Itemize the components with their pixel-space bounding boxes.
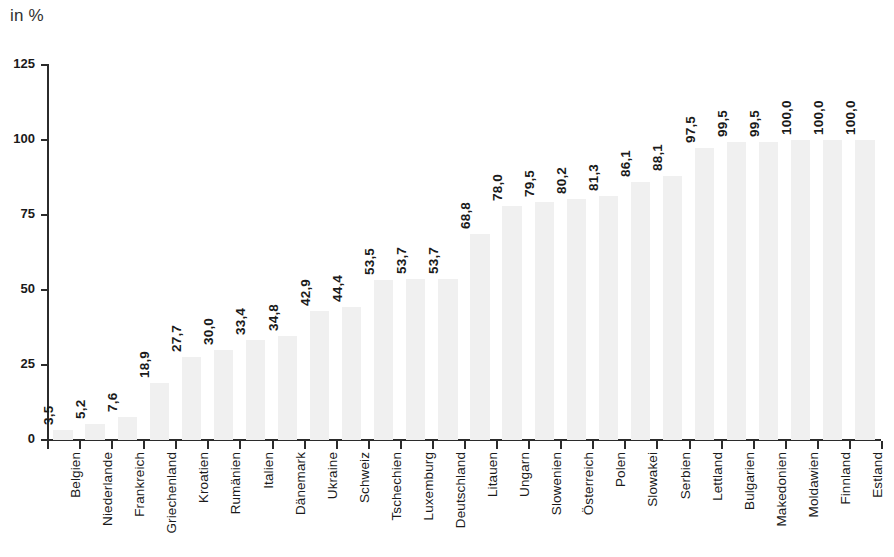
x-tick <box>79 441 81 449</box>
bar[interactable] <box>663 176 682 440</box>
bar[interactable] <box>246 340 265 440</box>
bar-value-label: 88,1 <box>650 144 665 171</box>
bar-value-label: 53,7 <box>394 247 409 274</box>
category-label-text: Serbien <box>678 452 693 499</box>
bar[interactable] <box>150 383 169 440</box>
bar[interactable] <box>823 140 842 440</box>
bar[interactable] <box>695 148 714 441</box>
category-label: Belgien <box>68 452 83 498</box>
category-label-text: Ukraine <box>325 452 340 499</box>
bar[interactable] <box>406 279 425 440</box>
x-tick <box>400 441 402 449</box>
bar[interactable] <box>631 182 650 440</box>
category-label: Slowenien <box>549 452 564 515</box>
bar[interactable] <box>470 234 489 440</box>
bar-value-label: 100,0 <box>779 100 794 135</box>
category-label: Niederlande <box>100 452 115 526</box>
bar-slot: 33,4 <box>246 65 265 440</box>
y-tick-label: 0 <box>28 431 35 446</box>
x-tick <box>560 441 562 449</box>
category-label: Litauen <box>485 452 500 497</box>
x-tick <box>175 441 177 449</box>
category-label-text: Makedonien <box>774 452 789 527</box>
category-label-text: Estland <box>870 452 885 498</box>
category-label-text: Kroatien <box>196 452 211 503</box>
category-label: Italien <box>261 452 276 489</box>
bar-slot: 27,7 <box>182 65 201 440</box>
x-tick <box>239 441 241 449</box>
bar-value-label: 99,5 <box>747 109 762 136</box>
category-label-text: Italien <box>261 452 276 489</box>
bar[interactable] <box>278 336 297 440</box>
bar-slot: 99,5 <box>727 65 746 440</box>
bar-value-label: 100,0 <box>843 100 858 135</box>
x-tick-end <box>881 441 883 449</box>
bar[interactable] <box>85 424 104 440</box>
bar[interactable] <box>342 307 361 440</box>
bar[interactable] <box>567 199 586 440</box>
bar-value-label: 5,2 <box>73 400 88 419</box>
x-tick <box>689 441 691 449</box>
bar[interactable] <box>791 140 810 440</box>
category-label: Frankreich <box>132 452 147 517</box>
bar-slot: 34,8 <box>278 65 297 440</box>
x-tick <box>817 441 819 449</box>
bar-slot: 78,0 <box>502 65 521 440</box>
bar[interactable] <box>53 430 72 441</box>
bar[interactable] <box>727 142 746 441</box>
bar[interactable] <box>310 311 329 440</box>
category-label-text: Niederlande <box>100 452 115 526</box>
category-label: Moldawien <box>806 452 821 517</box>
category-label: Rumänien <box>228 452 243 514</box>
bar[interactable] <box>502 206 521 440</box>
bar[interactable] <box>855 140 874 440</box>
category-label-text: Tschechien <box>389 452 404 521</box>
bar-slot: 81,3 <box>599 65 618 440</box>
category-label-text: Luxemburg <box>421 452 436 520</box>
x-tick <box>207 441 209 449</box>
y-tick-label: 25 <box>21 356 35 371</box>
bar-slot: 18,9 <box>150 65 169 440</box>
bar[interactable] <box>118 417 137 440</box>
bar[interactable] <box>438 279 457 440</box>
bar-value-label: 53,5 <box>362 247 377 274</box>
bar[interactable] <box>374 280 393 441</box>
category-label-text: Dänemark <box>293 452 308 515</box>
bar-value-label: 86,1 <box>618 150 633 177</box>
bar-slot: 100,0 <box>791 65 810 440</box>
y-tick-label: 50 <box>21 281 35 296</box>
bar[interactable] <box>214 350 233 440</box>
bar-value-label: 97,5 <box>683 115 698 142</box>
bar[interactable] <box>535 202 554 441</box>
bar[interactable] <box>182 357 201 440</box>
bar-slot: 88,1 <box>663 65 682 440</box>
category-label-text: Bulgarien <box>742 452 757 510</box>
x-tick <box>272 441 274 449</box>
bar-value-label: 44,4 <box>330 275 345 302</box>
bar-slot: 53,7 <box>438 65 457 440</box>
category-label: Schweiz <box>357 452 372 503</box>
bar[interactable] <box>759 142 778 441</box>
bar-value-label: 99,5 <box>715 109 730 136</box>
bar-value-label: 68,8 <box>458 202 473 229</box>
x-tick <box>624 441 626 449</box>
category-label: Ungarn <box>517 452 532 497</box>
bar-slot: 30,0 <box>214 65 233 440</box>
x-tick <box>111 441 113 449</box>
bar-slot: 68,8 <box>470 65 489 440</box>
bar-value-label: 34,8 <box>266 304 281 331</box>
bar-value-label: 100,0 <box>811 100 826 135</box>
bar[interactable] <box>599 196 618 440</box>
bar-slot: 3,5 <box>53 65 72 440</box>
x-tick <box>849 441 851 449</box>
category-label-text: Slowenien <box>549 452 564 515</box>
category-label-text: Slowakei <box>645 452 660 507</box>
category-label: Polen <box>613 452 628 487</box>
x-tick <box>368 441 370 449</box>
bar-value-label: 53,7 <box>426 247 441 274</box>
category-label: Kroatien <box>196 452 211 503</box>
bar-slot: 42,9 <box>310 65 329 440</box>
bar-slot: 53,5 <box>374 65 393 440</box>
x-tick <box>496 441 498 449</box>
bar-chart: in % 0255075100125 3,55,27,618,927,730,0… <box>0 0 894 557</box>
